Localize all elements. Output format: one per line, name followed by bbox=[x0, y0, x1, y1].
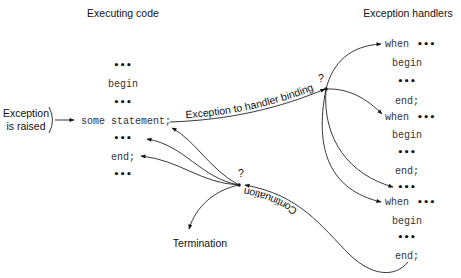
handler-when-ellipsis: ••• bbox=[417, 197, 436, 207]
continuation-question-mark: ? bbox=[238, 167, 244, 179]
continuation-edge-label: Continuation bbox=[242, 186, 298, 218]
handler-line-ellipsis: ••• bbox=[398, 182, 417, 192]
code-line-ellipsis: ••• bbox=[114, 97, 133, 107]
exception-handlers-block: when•••begin•••end;when•••begin•••end;••… bbox=[385, 39, 436, 262]
handler-line-ellipsis: ••• bbox=[398, 232, 417, 242]
edge-to-handler-1 bbox=[326, 44, 381, 89]
exception-brace bbox=[49, 107, 53, 133]
handler-when-keyword: when bbox=[385, 112, 409, 123]
exception-raised-line2: is raised bbox=[6, 120, 45, 132]
handler-line-begin: begin bbox=[392, 216, 422, 227]
termination-edge bbox=[189, 185, 239, 229]
exception-raised-line1: Exception bbox=[3, 107, 49, 119]
edge-to-handler-2 bbox=[326, 89, 382, 114]
handler-when-ellipsis: ••• bbox=[417, 39, 436, 49]
code-line-ellipsis: ••• bbox=[114, 133, 133, 143]
handler-line-end: end; bbox=[395, 96, 419, 107]
resume-some-statement-edge bbox=[172, 128, 239, 185]
handler-line-end: end; bbox=[395, 166, 419, 177]
handler-line-ellipsis: ••• bbox=[398, 147, 417, 157]
handler-when-ellipsis: ••• bbox=[417, 112, 436, 122]
handler-when-keyword: when bbox=[385, 197, 409, 208]
edge-to-handler-gap bbox=[326, 89, 393, 187]
executing-code-block: ••• begin ••• some statement; ••• end; •… bbox=[81, 60, 171, 179]
code-line-ellipsis: ••• bbox=[114, 169, 133, 179]
code-line-end: end; bbox=[111, 152, 135, 163]
code-line-some-statement: some statement; bbox=[81, 116, 171, 127]
handler-line-begin: begin bbox=[392, 58, 422, 69]
edge-to-handler-3 bbox=[322, 89, 381, 202]
termination-label: Termination bbox=[173, 237, 227, 249]
handler-line-ellipsis: ••• bbox=[398, 76, 417, 86]
code-line-begin: begin bbox=[108, 79, 138, 90]
handler-when-keyword: when bbox=[385, 39, 409, 50]
binding-question-mark: ? bbox=[318, 72, 324, 84]
code-line-ellipsis: ••• bbox=[114, 60, 133, 70]
handler-line-begin: begin bbox=[392, 130, 422, 141]
handler-line-end: end; bbox=[395, 251, 419, 262]
resume-after-statement-edge bbox=[147, 139, 239, 185]
heading-exception-handlers: Exception handlers bbox=[363, 7, 452, 19]
heading-executing-code: Executing code bbox=[87, 7, 159, 19]
exception-handling-diagram: Executing code Exception handlers Except… bbox=[0, 0, 461, 278]
continuation-label-text: Continuation bbox=[242, 186, 298, 218]
